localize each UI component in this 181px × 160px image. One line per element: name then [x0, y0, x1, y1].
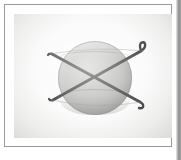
page-gutter-shadow [176, 0, 181, 160]
photo-plate [14, 14, 172, 138]
sphere [58, 41, 132, 115]
screenshot-root: Sphere with crossed binding straps Photo… [0, 0, 181, 160]
hook-top-right-icon [140, 42, 145, 51]
sphere-outline [58, 41, 132, 115]
hook-top-left-icon [48, 54, 52, 55]
hook-bottom-left-icon [49, 99, 53, 100]
figure-title: Sphere with crossed binding straps [0, 0, 1, 1]
ruled-border-frame [4, 4, 172, 147]
figure-description: Photographic plate showing a shaded gray… [0, 0, 1, 1]
hook-bottom-right-icon [139, 102, 143, 108]
